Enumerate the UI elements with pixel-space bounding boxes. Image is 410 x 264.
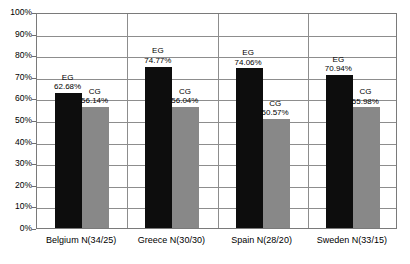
gridline-vertical (127, 14, 128, 228)
data-label: CG56.14% (67, 87, 123, 106)
x-axis-category-label: Greece N(30/30) (126, 235, 216, 246)
data-label-series: CG (247, 99, 303, 109)
data-label-value: 55.98% (337, 97, 393, 107)
x-axis: Belgium N(34/25)Greece N(30/30)Spain N(2… (36, 231, 397, 251)
x-axis-category-label: Sweden N(33/15) (307, 235, 397, 246)
bar-eg (236, 68, 263, 228)
plot-area (36, 13, 397, 229)
data-label-series: CG (337, 87, 393, 97)
bar-chart: 100%90%80%70%60%50%40%30%20%10%0% Belgiu… (0, 0, 410, 264)
data-label-series: EG (130, 46, 186, 56)
data-label-series: EG (310, 55, 366, 65)
data-label-value: 74.06% (220, 58, 276, 68)
data-label-series: EG (220, 48, 276, 58)
data-label-value: 56.04% (157, 96, 213, 106)
y-axis-ticks (0, 13, 36, 229)
bar-cg (82, 107, 109, 228)
data-label-value: 56.14% (67, 96, 123, 106)
data-label: CG56.04% (157, 87, 213, 106)
gridline-vertical (308, 14, 309, 228)
data-label-series: CG (67, 87, 123, 97)
x-axis-category-label: Belgium N(34/25) (36, 235, 126, 246)
x-axis-category-label: Spain N(28/20) (217, 235, 307, 246)
data-label-series: EG (40, 73, 96, 83)
bar-cg (263, 119, 290, 228)
y-axis-tick-mark (32, 229, 36, 230)
data-label: CG50.57% (247, 99, 303, 118)
data-label-series: CG (157, 87, 213, 97)
gridline-vertical (218, 14, 219, 228)
data-label-value: 70.94% (310, 64, 366, 74)
data-label: EG70.94% (310, 55, 366, 74)
gridline-horizontal (37, 36, 396, 37)
data-label: EG74.06% (220, 48, 276, 67)
data-label-value: 74.77% (130, 56, 186, 66)
bar-cg (172, 107, 199, 228)
data-label: EG74.77% (130, 46, 186, 65)
data-label: CG55.98% (337, 87, 393, 106)
bar-eg (55, 93, 82, 228)
bar-cg (353, 107, 380, 228)
data-label-value: 50.57% (247, 108, 303, 118)
